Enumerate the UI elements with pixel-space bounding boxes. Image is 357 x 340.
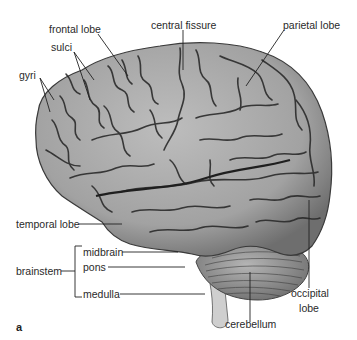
label-brainstem: brainstem: [16, 265, 62, 277]
label-occipital-lobe: occipital lobe: [291, 287, 327, 314]
label-frontal-lobe: frontal lobe: [49, 23, 101, 35]
label-medulla: medulla: [83, 288, 120, 300]
label-occipital-line2: lobe: [291, 302, 327, 314]
label-cerebellum: cerebellum: [225, 318, 276, 330]
label-central-fissure: central fissure: [151, 19, 216, 31]
label-gyri: gyri: [19, 69, 36, 81]
label-sulci: sulci: [51, 41, 72, 53]
label-temporal-lobe: temporal lobe: [16, 218, 80, 230]
panel-letter: a: [16, 321, 22, 333]
label-pons: pons: [83, 261, 106, 273]
label-occipital-line1: occipital: [291, 287, 327, 299]
label-midbrain: midbrain: [83, 246, 123, 258]
label-parietal-lobe: parietal lobe: [283, 19, 340, 31]
